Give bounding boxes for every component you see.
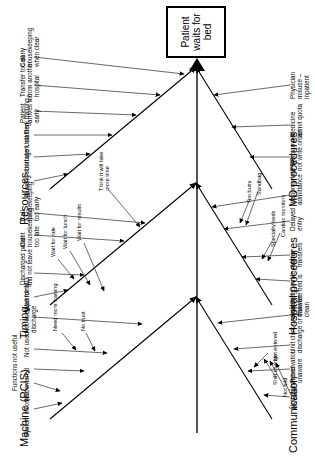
subcause-label-on-break: On break bbox=[292, 386, 298, 409]
subcause-label-need-more-training: Need more training bbox=[52, 283, 58, 331]
fishbone-diagram: Patient waits for bed Machine (PCIS) Tim… bbox=[0, 0, 315, 457]
cause-label-medicine-admit-quota: Medicine admit quota bbox=[290, 99, 304, 137]
bone-timing bbox=[34, 183, 196, 305]
subcause-label-specialty-beds: Specialty beds bbox=[270, 211, 276, 247]
bone-machine bbox=[34, 297, 196, 419]
subcause-label-wait-for-ride: Wait for ride bbox=[50, 227, 56, 257]
cause-label-delayed-entry: Delayed entry bbox=[290, 201, 304, 231]
bone-resources bbox=[34, 57, 196, 189]
subcause-label-wait-for-lunch: Wait for lunch bbox=[62, 215, 68, 249]
cause-label-many-transfers: Many transfers bbox=[290, 233, 304, 267]
subcause-label-think-it-will-take-more-time: Think it will take more time bbox=[98, 149, 110, 191]
subcause-label-wait-for-results: Wait for results bbox=[76, 204, 82, 241]
subcause-label-too-busy: Too busy bbox=[246, 181, 252, 203]
diagram-stage: Patient waits for bed Machine (PCIS) Tim… bbox=[0, 0, 315, 457]
cause-label-not-entered: Not entered bbox=[24, 368, 31, 401]
subcause-label-shift-change: Shift change bbox=[272, 354, 278, 385]
bone-md-procedures bbox=[196, 67, 290, 189]
cause-label-call-housekeeping-when-clear: Call housekeeping when clear bbox=[20, 19, 40, 67]
cause-label-functions-not-useful: Functions not useful bbox=[12, 335, 19, 391]
subcause-label-not-told: Not told bbox=[282, 378, 288, 397]
subcause-label-cardiac-monitors: Cardiac monitors bbox=[280, 195, 286, 237]
cause-label-not-used: Not used bbox=[24, 332, 31, 357]
cause-label-physician-misuse-inpatient: Physician misuse – inpatient bbox=[290, 51, 310, 99]
bone-lines bbox=[0, 0, 315, 457]
subcause-label-sandbag: Sandbag bbox=[256, 173, 262, 195]
subcause-label-no-trust: No trust bbox=[80, 311, 86, 331]
